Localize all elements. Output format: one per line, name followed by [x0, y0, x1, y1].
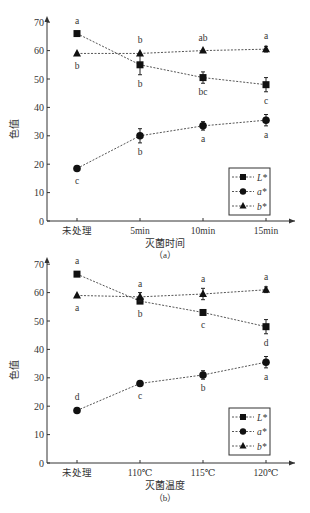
- significance-letter: c: [138, 391, 142, 401]
- square-marker: [74, 30, 81, 37]
- legend-label: L*: [256, 173, 267, 183]
- circle-marker: [73, 165, 81, 173]
- y-tick-label: 50: [34, 74, 44, 85]
- triangle-marker: [262, 285, 270, 293]
- x-axis-label: 灭菌温度: [145, 479, 185, 491]
- circle-marker: [199, 371, 207, 379]
- significance-letter: d: [264, 338, 269, 348]
- circle-marker: [136, 380, 144, 388]
- legend-label: a*: [257, 427, 267, 437]
- significance-letter: a: [201, 274, 206, 284]
- y-tick-label: 30: [34, 372, 44, 383]
- series-b-star: bbaba: [73, 31, 270, 71]
- y-tick-label: 70: [34, 259, 44, 270]
- square-marker: [137, 61, 144, 68]
- y-tick-label: 20: [34, 401, 44, 412]
- panel-label: （a）: [154, 250, 176, 260]
- significance-letter: b: [138, 147, 143, 157]
- significance-letter: d: [75, 392, 80, 402]
- circle-marker: [262, 358, 270, 366]
- triangle-marker: [262, 45, 270, 53]
- series-L-star: abbcc: [74, 16, 270, 106]
- circle-marker: [136, 132, 144, 140]
- triangle-marker: [199, 290, 207, 298]
- significance-letter: b: [138, 35, 143, 45]
- square-marker: [263, 81, 270, 88]
- circle-marker: [199, 122, 207, 130]
- y-tick-label: 20: [34, 159, 44, 170]
- x-tick-label: 15min: [254, 226, 279, 236]
- circle-marker: [262, 116, 270, 124]
- legend-label: b*: [257, 442, 267, 452]
- significance-letter: b: [201, 383, 206, 393]
- square-marker: [200, 74, 207, 81]
- triangle-marker: [136, 292, 144, 300]
- legend-label: L*: [256, 413, 267, 423]
- triangle-marker: [199, 46, 207, 54]
- x-tick-label: 未处理: [62, 467, 92, 478]
- square-marker: [263, 323, 270, 330]
- y-tick-label: 0: [39, 216, 44, 227]
- x-tick-label: 110℃: [128, 468, 153, 478]
- series-b-star: aaaa: [73, 272, 270, 314]
- triangle-marker: [73, 49, 81, 57]
- figure: 010203040506070色值未处理5min10min15min灭菌时间（a…: [0, 0, 310, 513]
- chart-panel-a: 010203040506070色值未处理5min10min15min灭菌时间（a…: [8, 16, 295, 260]
- significance-letter: a: [75, 303, 80, 313]
- significance-letter: b: [138, 309, 143, 319]
- x-tick-label: 120℃: [254, 468, 279, 478]
- legend: L*a*b*: [229, 168, 270, 215]
- legend-label: a*: [257, 187, 267, 197]
- x-tick-label: 未处理: [62, 225, 92, 236]
- y-axis-label: 色值: [8, 119, 20, 139]
- x-tick-label: 5min: [130, 226, 150, 236]
- chart-panel-b: 010203040506070色值未处理110℃115℃120℃灭菌温度（b）a…: [8, 256, 295, 503]
- legend-label: b*: [257, 202, 267, 212]
- circle-marker: [73, 407, 81, 415]
- y-tick-label: 40: [34, 344, 44, 355]
- triangle-marker: [136, 49, 144, 57]
- y-tick-label: 10: [34, 187, 44, 198]
- significance-letter: a: [138, 279, 143, 289]
- significance-letter: a: [264, 272, 269, 282]
- significance-letter: ab: [199, 33, 208, 43]
- significance-letter: a: [264, 372, 269, 382]
- x-tick-label: 115℃: [191, 468, 216, 478]
- panel-label: （b）: [154, 493, 177, 503]
- y-tick-label: 40: [34, 102, 44, 113]
- series-a-star: dcba: [73, 357, 270, 415]
- significance-letter: a: [201, 134, 206, 144]
- y-tick-label: 30: [34, 130, 44, 141]
- significance-letter: bc: [199, 87, 208, 97]
- square-marker: [200, 309, 207, 316]
- significance-letter: c: [75, 176, 79, 186]
- y-tick-label: 60: [34, 287, 44, 298]
- significance-letter: c: [201, 320, 205, 330]
- y-tick-label: 10: [34, 429, 44, 440]
- square-marker: [74, 271, 81, 278]
- significance-letter: a: [264, 31, 269, 41]
- y-tick-label: 50: [34, 316, 44, 327]
- significance-letter: a: [75, 16, 80, 26]
- legend: L*a*b*: [229, 408, 270, 455]
- y-tick-label: 70: [34, 17, 44, 28]
- triangle-marker: [73, 291, 81, 299]
- y-tick-label: 60: [34, 45, 44, 56]
- significance-letter: a: [75, 256, 80, 266]
- series-L-star: abcd: [74, 256, 270, 348]
- significance-letter: b: [138, 79, 143, 89]
- y-axis-label: 色值: [8, 360, 20, 380]
- significance-letter: c: [264, 96, 268, 106]
- significance-letter: a: [264, 130, 269, 140]
- y-tick-label: 0: [39, 458, 44, 469]
- x-tick-label: 10min: [191, 226, 216, 236]
- x-axis-label: 灭菌时间: [145, 237, 185, 249]
- significance-letter: b: [75, 61, 80, 71]
